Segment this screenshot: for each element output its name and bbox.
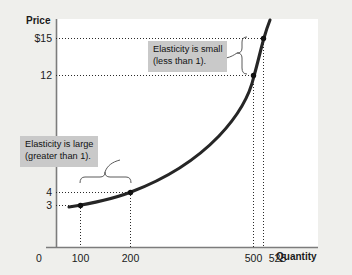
y-tick-label-4: 4 (14, 187, 52, 198)
y-axis-title: Price (26, 16, 50, 26)
origin-label: 0 (32, 253, 46, 264)
x-tick-label-200: 200 (114, 253, 147, 264)
data-point-100-3 (78, 203, 83, 208)
data-point-525-15 (261, 36, 266, 41)
callout-elasticity-small: Elasticity is small (less than 1). (148, 41, 227, 72)
data-point-500-12 (251, 73, 256, 78)
x-tick-label-100: 100 (64, 253, 97, 264)
y-tick-label-15: $15 (14, 33, 52, 44)
data-point-200-4 (128, 190, 133, 195)
y-tick-label-12: 12 (14, 70, 52, 81)
y-tick-label-3: 3 (14, 200, 52, 211)
callout-elasticity-large: Elasticity is large (greater than 1). (20, 136, 98, 167)
x-tick-label-525: 525 (261, 253, 294, 264)
elasticity-supply-curve-figure: Price Quantity $15 12 4 3 0 100 200 500 … (0, 0, 352, 275)
